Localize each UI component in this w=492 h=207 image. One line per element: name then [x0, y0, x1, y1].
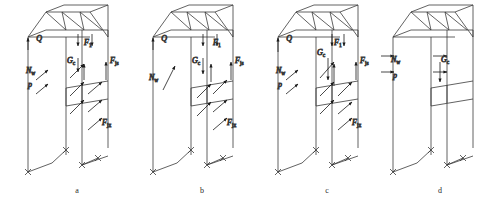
figure-canvas: QNwpGcF1FjsFjx: [0, 0, 492, 207]
labels-d: NwpGc: [390, 55, 450, 80]
panel-caption-a: a: [67, 186, 87, 195]
roof-d: [393, 5, 473, 37]
force-label-subscript: c: [447, 59, 450, 65]
panel-caption-c: c: [317, 186, 337, 195]
supports-d: [390, 143, 473, 175]
frame-d: [393, 30, 473, 150]
force-label-g-c: Gc: [441, 55, 450, 65]
panel-d: NwpGc: [0, 0, 492, 207]
force-label-subscript: w: [396, 59, 400, 65]
force-label-n-w: Nw: [390, 55, 400, 65]
force-label-p: p: [392, 71, 397, 80]
panel-caption-b: b: [192, 186, 212, 195]
panel-caption-d: d: [430, 186, 450, 195]
